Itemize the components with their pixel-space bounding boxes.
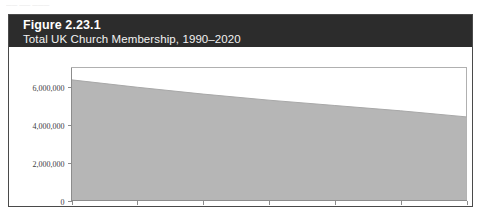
- series-total-uk-church-membership: [72, 80, 467, 201]
- x-tick-label: 2000: [196, 207, 212, 209]
- x-tick-label: 2010: [328, 207, 344, 209]
- chart-canvas: 02,000,0004,000,0006,000,000 19901995200…: [9, 47, 474, 208]
- x-tick-label: 2005: [262, 207, 278, 209]
- x-axis-ticks: 1990199520002005201020152020: [63, 201, 475, 209]
- figure-subtitle: Total UK Church Membership, 1990–2020: [23, 32, 472, 47]
- y-tick-label: 6,000,000: [33, 84, 65, 93]
- y-axis: 02,000,0004,000,0006,000,000: [33, 68, 72, 207]
- y-tick-label: 4,000,000: [33, 122, 65, 131]
- figure-number-label: Figure 2.23.1: [23, 18, 472, 32]
- x-tick-label: 2020: [462, 207, 475, 209]
- area-chart: 02,000,0004,000,0006,000,000 19901995200…: [9, 47, 474, 208]
- y-tick-label: 2,000,000: [33, 160, 65, 169]
- y-axis-ticks: 02,000,0004,000,0006,000,000: [33, 84, 72, 207]
- y-tick-label: 0: [61, 198, 65, 207]
- figure-card: Figure 2.23.1 Total UK Church Membership…: [8, 14, 473, 207]
- x-tick-label: 1995: [130, 207, 146, 209]
- scan-artifact-text: —— —— ———: [6, 1, 166, 9]
- x-tick-label: 1990: [63, 207, 79, 209]
- x-axis: 1990199520002005201020152020: [63, 201, 475, 209]
- figure-header: Figure 2.23.1 Total UK Church Membership…: [9, 15, 472, 47]
- x-tick-label: 2015: [394, 207, 410, 209]
